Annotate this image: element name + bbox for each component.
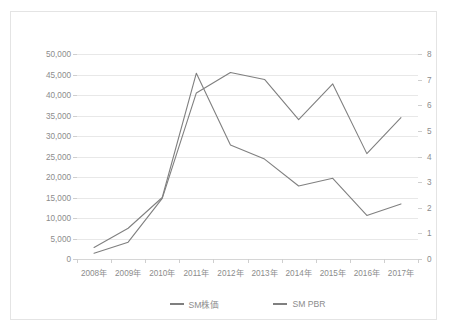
- y-axis-right-tick-label: 7: [427, 75, 447, 84]
- x-axis-tick-mark: [77, 259, 78, 263]
- y-axis-right-tick-mark: [418, 182, 422, 183]
- legend-label: SM株価: [189, 298, 220, 310]
- plot-area: [77, 54, 418, 259]
- y-axis-right-tick-label: 6: [427, 101, 447, 110]
- x-axis-tick-mark: [316, 259, 317, 263]
- y-axis-right-tick-label: 0: [427, 255, 447, 264]
- x-axis-tick-mark: [111, 259, 112, 263]
- legend-label: SM PBR: [292, 299, 325, 309]
- y-axis-right-tick-mark: [418, 80, 422, 81]
- y-axis-right-tick-label: 2: [427, 203, 447, 212]
- y-axis-right-tick-mark: [418, 105, 422, 106]
- y-axis-right-tick-label: 5: [427, 126, 447, 135]
- legend-entry[interactable]: SM株価: [170, 298, 220, 310]
- y-axis-left-tick-label: 25,000: [25, 152, 71, 161]
- x-axis-tick-mark: [179, 259, 180, 263]
- x-axis-tick-mark: [213, 259, 214, 263]
- legend-entry[interactable]: SM PBR: [273, 299, 325, 309]
- legend-line-icon: [170, 303, 184, 304]
- x-axis-tick-mark: [145, 259, 146, 263]
- x-axis-tick-mark: [282, 259, 283, 263]
- y-axis-right-tick-mark: [418, 208, 422, 209]
- y-axis-right-tick-mark: [418, 54, 422, 55]
- y-axis-left-tick-label: 5,000: [25, 234, 71, 243]
- y-axis-right-tick-label: 3: [427, 178, 447, 187]
- y-axis-left-tick-label: 35,000: [25, 111, 71, 120]
- series-line: [94, 73, 401, 247]
- y-axis-left-tick-label: 10,000: [25, 214, 71, 223]
- y-axis-right-tick-mark: [418, 233, 422, 234]
- y-axis-left-tick-label: 15,000: [25, 193, 71, 202]
- y-axis-left-tick-label: 40,000: [25, 91, 71, 100]
- x-axis-tick-mark: [350, 259, 351, 263]
- series-line: [94, 72, 401, 253]
- y-axis-left-tick-label: 20,000: [25, 173, 71, 182]
- x-axis-tick-label: 2017年: [378, 266, 424, 278]
- y-axis-right-tick-label: 1: [427, 229, 447, 238]
- chart-screenshot: 05,00010,00015,00020,00025,00030,00035,0…: [0, 0, 449, 332]
- y-axis-right-tick-mark: [418, 131, 422, 132]
- chart-legend: SM株価SM PBR: [77, 296, 418, 312]
- y-axis-right-tick-label: 4: [427, 152, 447, 161]
- y-axis-left-tick-label: 0: [25, 255, 71, 264]
- legend-line-icon: [273, 303, 287, 304]
- series-lines: [77, 54, 418, 259]
- x-axis-tick-mark: [248, 259, 249, 263]
- x-axis-tick-mark: [418, 259, 419, 263]
- x-axis-tick-mark: [384, 259, 385, 263]
- y-axis-left-tick-label: 30,000: [25, 132, 71, 141]
- y-axis-left-tick-label: 50,000: [25, 50, 71, 59]
- y-axis-left-tick-label: 45,000: [25, 70, 71, 79]
- chart-frame: 05,00010,00015,00020,00025,00030,00035,0…: [10, 11, 437, 320]
- y-axis-right-tick-label: 8: [427, 50, 447, 59]
- y-axis-right-tick-mark: [418, 157, 422, 158]
